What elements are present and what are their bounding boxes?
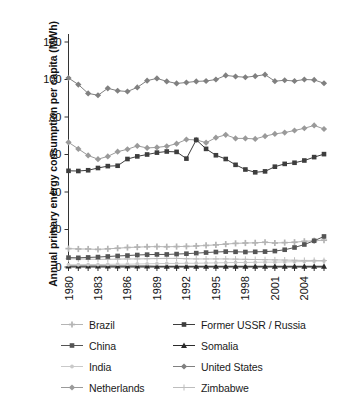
x-tick-label: 2001 bbox=[269, 276, 281, 300]
data-point bbox=[115, 149, 121, 155]
data-point bbox=[252, 136, 258, 142]
data-point bbox=[252, 73, 258, 79]
data-point bbox=[86, 168, 91, 173]
data-point bbox=[75, 246, 81, 252]
data-point bbox=[154, 243, 160, 249]
data-point bbox=[243, 167, 248, 172]
data-point bbox=[252, 257, 258, 263]
legend-label: India bbox=[89, 361, 111, 373]
data-point bbox=[242, 256, 248, 262]
data-point bbox=[311, 257, 317, 263]
data-point bbox=[214, 250, 219, 255]
data-point bbox=[302, 242, 307, 247]
legend-marker-icon bbox=[60, 361, 84, 372]
data-point bbox=[86, 255, 91, 260]
data-point bbox=[70, 343, 75, 348]
data-point bbox=[233, 163, 238, 168]
data-point bbox=[203, 242, 209, 248]
data-point bbox=[252, 240, 258, 246]
data-point bbox=[301, 257, 307, 263]
legend-marker-icon bbox=[60, 382, 84, 393]
data-point bbox=[263, 169, 268, 174]
data-point bbox=[213, 76, 219, 82]
data-point bbox=[292, 160, 297, 165]
data-point bbox=[273, 249, 278, 254]
data-point bbox=[302, 158, 307, 163]
legend-item-united-states[interactable]: United States bbox=[172, 356, 330, 377]
legend-label: United States bbox=[201, 361, 263, 373]
data-point bbox=[223, 72, 229, 78]
legend-label: Netherlands bbox=[89, 382, 145, 394]
data-point bbox=[181, 363, 187, 369]
legend-item-china[interactable]: China bbox=[60, 335, 172, 356]
legend-item-brazil[interactable]: Brazil bbox=[60, 314, 172, 335]
data-point bbox=[233, 256, 239, 262]
data-point bbox=[69, 321, 75, 327]
data-point bbox=[105, 85, 111, 91]
data-point bbox=[105, 153, 111, 159]
data-point bbox=[165, 262, 169, 266]
data-point bbox=[232, 240, 238, 246]
data-point bbox=[223, 241, 229, 247]
data-point bbox=[242, 74, 248, 80]
x-tick-label: 1998 bbox=[239, 276, 251, 300]
x-tick-label: 1995 bbox=[210, 276, 222, 300]
data-point bbox=[116, 262, 120, 266]
data-point bbox=[85, 152, 91, 158]
legend-item-somalia[interactable]: Somalia bbox=[172, 335, 330, 356]
series-united-states bbox=[65, 72, 327, 99]
data-point bbox=[164, 149, 169, 154]
data-point bbox=[69, 384, 75, 390]
legend-marker-icon bbox=[172, 361, 196, 372]
data-point bbox=[135, 253, 140, 258]
data-point bbox=[214, 153, 219, 158]
data-point bbox=[115, 163, 120, 168]
data-point bbox=[183, 79, 189, 85]
legend-item-zimbabwe[interactable]: Zimbabwe bbox=[172, 377, 330, 398]
data-point bbox=[322, 234, 327, 239]
data-point bbox=[262, 133, 268, 139]
data-point bbox=[65, 139, 71, 145]
data-point bbox=[76, 263, 80, 267]
data-point bbox=[174, 252, 179, 257]
data-point bbox=[66, 255, 71, 260]
x-axis: 198019831986198919921995199820012004 bbox=[63, 267, 325, 300]
data-point bbox=[155, 150, 160, 155]
data-point bbox=[115, 254, 120, 259]
data-point bbox=[95, 92, 101, 98]
data-point bbox=[272, 78, 278, 84]
series-brazil bbox=[65, 237, 327, 252]
legend-marker-icon bbox=[172, 382, 196, 393]
data-point bbox=[184, 251, 189, 256]
data-point bbox=[213, 135, 219, 141]
data-point bbox=[144, 78, 150, 84]
data-point bbox=[183, 256, 189, 262]
data-point bbox=[126, 262, 130, 266]
data-point bbox=[242, 135, 248, 141]
data-point bbox=[232, 73, 238, 79]
series-netherlands bbox=[65, 122, 327, 162]
data-point bbox=[106, 262, 110, 266]
data-point bbox=[223, 157, 228, 162]
data-point bbox=[96, 166, 101, 171]
legend-item-india[interactable]: India bbox=[60, 356, 172, 377]
data-point bbox=[183, 243, 189, 249]
data-point bbox=[125, 157, 130, 162]
legend-item-former-ussr-russia[interactable]: Former USSR / Russia bbox=[172, 314, 330, 335]
data-point bbox=[173, 141, 179, 147]
data-point bbox=[311, 122, 317, 128]
data-point bbox=[164, 252, 169, 257]
data-point bbox=[106, 164, 111, 169]
legend-item-netherlands[interactable]: Netherlands bbox=[60, 377, 172, 398]
data-point bbox=[70, 365, 74, 369]
data-point bbox=[194, 251, 199, 256]
data-point bbox=[223, 249, 228, 254]
data-point bbox=[223, 132, 229, 138]
data-point bbox=[223, 256, 229, 262]
data-point bbox=[144, 145, 150, 151]
data-point bbox=[134, 143, 140, 149]
chart-figure: Annual primary energy consumption per ca… bbox=[0, 0, 338, 401]
x-tick-label: 1992 bbox=[180, 276, 192, 300]
data-point bbox=[204, 147, 209, 152]
data-point bbox=[135, 262, 139, 266]
